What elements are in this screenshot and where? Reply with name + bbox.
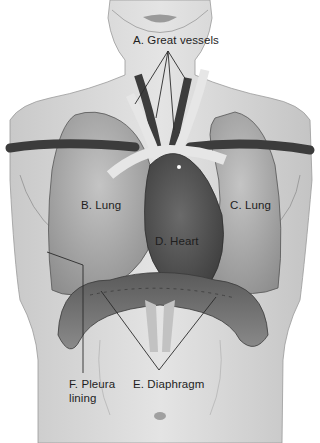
label-left-lung: C. Lung <box>230 199 271 212</box>
label-great-vessels: A. Great vessels <box>133 34 219 47</box>
label-pleura-line1: F. Pleura <box>69 378 115 391</box>
anatomy-illustration <box>0 0 320 443</box>
heart-highlight <box>177 165 181 169</box>
label-pleura-line2: lining <box>69 392 96 405</box>
label-heart: D. Heart <box>155 235 199 248</box>
label-right-lung: B. Lung <box>81 199 121 212</box>
thorax-diagram: A. Great vessels B. Lung C. Lung D. Hear… <box>0 0 320 443</box>
label-diaphragm: E. Diaphragm <box>133 378 205 391</box>
